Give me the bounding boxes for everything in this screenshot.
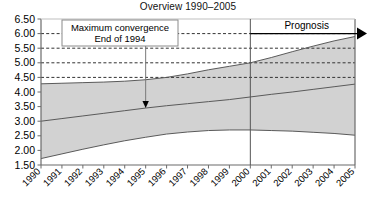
- y-tick-label: 5.00: [15, 56, 36, 68]
- x-tick-label: 1997: [166, 166, 189, 189]
- callout-line-1: Maximum convergence: [71, 22, 169, 33]
- x-tick-label: 2005: [334, 166, 357, 189]
- y-tick-label: 6.50: [15, 13, 36, 25]
- x-tick-label: 2002: [271, 166, 294, 189]
- x-tick-label: 1992: [62, 166, 85, 189]
- x-tick-label: 2003: [292, 166, 315, 189]
- y-tick-group: 6.506.005.505.004.504.003.503.002.502.00…: [15, 13, 41, 171]
- x-tick-label: 2000: [229, 166, 252, 189]
- y-tick-label: 2.50: [15, 129, 36, 141]
- chart-plot-svg: 6.506.005.505.004.504.003.503.002.502.00…: [0, 0, 376, 203]
- x-tick-label: 1994: [103, 166, 126, 189]
- y-tick-label: 3.00: [15, 115, 36, 127]
- prognosis-label-text: Prognosis: [284, 20, 328, 31]
- y-tick-label: 4.50: [15, 71, 36, 83]
- x-tick-label: 1998: [187, 166, 210, 189]
- chart-container: Overview 1990–2005 6.506.005.505.004.504…: [0, 0, 376, 203]
- x-tick-label: 2001: [250, 166, 273, 189]
- y-tick-label: 5.50: [15, 42, 36, 54]
- y-tick-label: 4.00: [15, 86, 36, 98]
- x-tick-label: 1999: [208, 166, 231, 189]
- y-tick-label: 3.50: [15, 100, 36, 112]
- x-tick-label: 1991: [41, 166, 64, 189]
- y-tick-label: 6.00: [15, 27, 36, 39]
- x-tick-label: 1993: [82, 166, 105, 189]
- x-tick-label: 1996: [145, 166, 168, 189]
- y-tick-label: 2.00: [15, 144, 36, 156]
- callout-line-2: End of 1994: [94, 33, 145, 44]
- x-tick-label: 2004: [313, 166, 336, 189]
- x-tick-label: 1995: [124, 166, 147, 189]
- x-tick-group: 1990199119921993199419951996199719981999…: [20, 165, 357, 188]
